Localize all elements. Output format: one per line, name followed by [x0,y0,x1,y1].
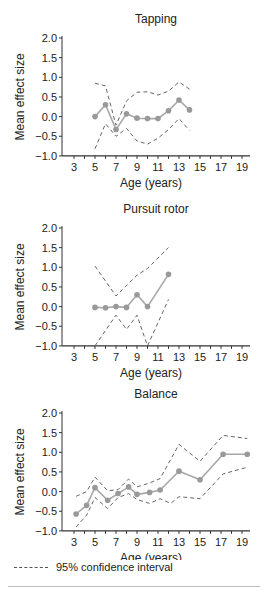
x-tick-label: 17 [215,536,227,548]
x-tick-label: 3 [71,351,77,363]
x-tick-label: 11 [152,351,163,363]
x-tick-label: 9 [134,161,140,173]
data-point-marker [176,97,182,103]
x-tick-label: 9 [134,351,140,363]
y-tick-label: 1.5 [42,427,57,439]
x-axis-label: Age (years) [120,551,182,560]
data-point-marker [103,102,109,108]
x-tick-label: 17 [215,351,227,363]
x-tick-label: 11 [152,161,163,173]
x-tick-label: 19 [236,536,248,548]
legend-label: 95% confidence interval [56,561,173,573]
data-point-marker [134,292,140,298]
y-tick-label: 0.0 [42,486,57,498]
data-point-marker [92,114,98,120]
y-tick-label: 1.5 [42,52,57,64]
y-tick-label: 2.0 [42,32,57,44]
data-point-marker [124,111,130,117]
y-tick-label: 1.0 [42,71,57,83]
x-tick-label: 15 [194,351,206,363]
data-point-marker [145,116,151,122]
x-tick-label: 15 [194,536,206,548]
data-point-marker [124,305,130,311]
x-tick-label: 3 [71,161,77,173]
chart-title: Pursuit rotor [123,202,188,216]
data-point-marker [197,477,203,483]
chart-title: Balance [134,387,178,401]
data-point-marker [166,108,172,114]
y-tick-label: −0.5 [35,130,57,142]
data-point-marker [145,304,151,310]
divider [8,586,260,587]
y-axis-label: Mean effect size [13,53,27,140]
y-tick-label: 0.5 [42,91,57,103]
y-tick-label: 0.5 [42,466,57,478]
x-tick-label: 19 [236,351,248,363]
data-point-marker [134,492,140,498]
mean-line [95,100,190,130]
data-point-marker [187,107,193,113]
data-point-marker [176,468,182,474]
x-tick-label: 3 [71,536,77,548]
x-tick-label: 5 [92,536,98,548]
data-point-marker [220,451,226,457]
y-tick-label: 0.0 [42,301,57,313]
chart-svg: Tapping2.01.51.00.50.0−0.5−1.0Mean effec… [0,0,266,190]
x-tick-label: 5 [92,351,98,363]
chart-svg: Balance2.01.51.00.50.0−0.5−1.0Mean effec… [0,375,266,560]
x-tick-label: 5 [92,161,98,173]
data-point-marker [105,497,111,503]
data-point-marker [92,485,98,491]
chart-tapping: Tapping2.01.51.00.50.0−0.5−1.0Mean effec… [0,0,266,190]
data-point-marker [115,491,121,497]
chart-title: Tapping [135,12,177,26]
chart-pursuit-rotor: Pursuit rotor2.01.51.00.50.0−0.5−1.0Mean… [0,190,266,380]
y-tick-label: 2.0 [42,407,57,419]
x-tick-label: 9 [134,536,140,548]
x-tick-label: 7 [113,161,119,173]
y-tick-label: −0.5 [35,505,57,517]
data-point-marker [134,115,140,121]
x-tick-label: 13 [173,351,185,363]
ci-lower-line [95,119,190,149]
data-point-marker [84,503,90,509]
y-tick-label: 0.5 [42,281,57,293]
y-axis-label: Mean effect size [13,243,27,330]
ci-lower-line [76,467,247,527]
y-axis-label: Mean effect size [13,428,27,515]
data-point-marker [157,487,163,493]
y-tick-label: 1.0 [42,446,57,458]
y-tick-label: −1.0 [35,340,57,352]
data-point-marker [92,305,98,311]
data-point-marker [147,490,153,496]
ci-upper-line [76,435,247,496]
y-tick-label: −0.5 [35,320,57,332]
y-tick-label: 1.0 [42,261,57,273]
x-axis-label: Age (years) [120,176,182,190]
x-tick-label: 19 [236,161,248,173]
chart-balance: Balance2.01.51.00.50.0−0.5−1.0Mean effec… [0,375,266,560]
mean-line [95,274,169,307]
x-tick-label: 7 [113,536,119,548]
x-tick-label: 7 [113,351,119,363]
dashed-line-icon [14,567,48,568]
legend: 95% confidence interval [14,561,173,573]
ci-upper-line [95,248,169,296]
x-tick-label: 17 [215,161,227,173]
y-tick-label: 0.0 [42,111,57,123]
data-point-marker [155,116,161,122]
x-tick-label: 15 [194,161,206,173]
x-tick-label: 13 [173,536,185,548]
x-tick-label: 13 [173,161,185,173]
chart-svg: Pursuit rotor2.01.51.00.50.0−0.5−1.0Mean… [0,190,266,380]
data-point-marker [166,272,172,278]
data-point-marker [126,484,132,490]
data-point-marker [73,511,79,517]
y-tick-label: 2.0 [42,222,57,234]
data-point-marker [113,304,119,310]
y-tick-label: 1.5 [42,242,57,254]
y-tick-label: −1.0 [35,525,57,537]
y-tick-label: −1.0 [35,150,57,162]
data-point-marker [244,451,250,457]
data-point-marker [103,305,109,311]
